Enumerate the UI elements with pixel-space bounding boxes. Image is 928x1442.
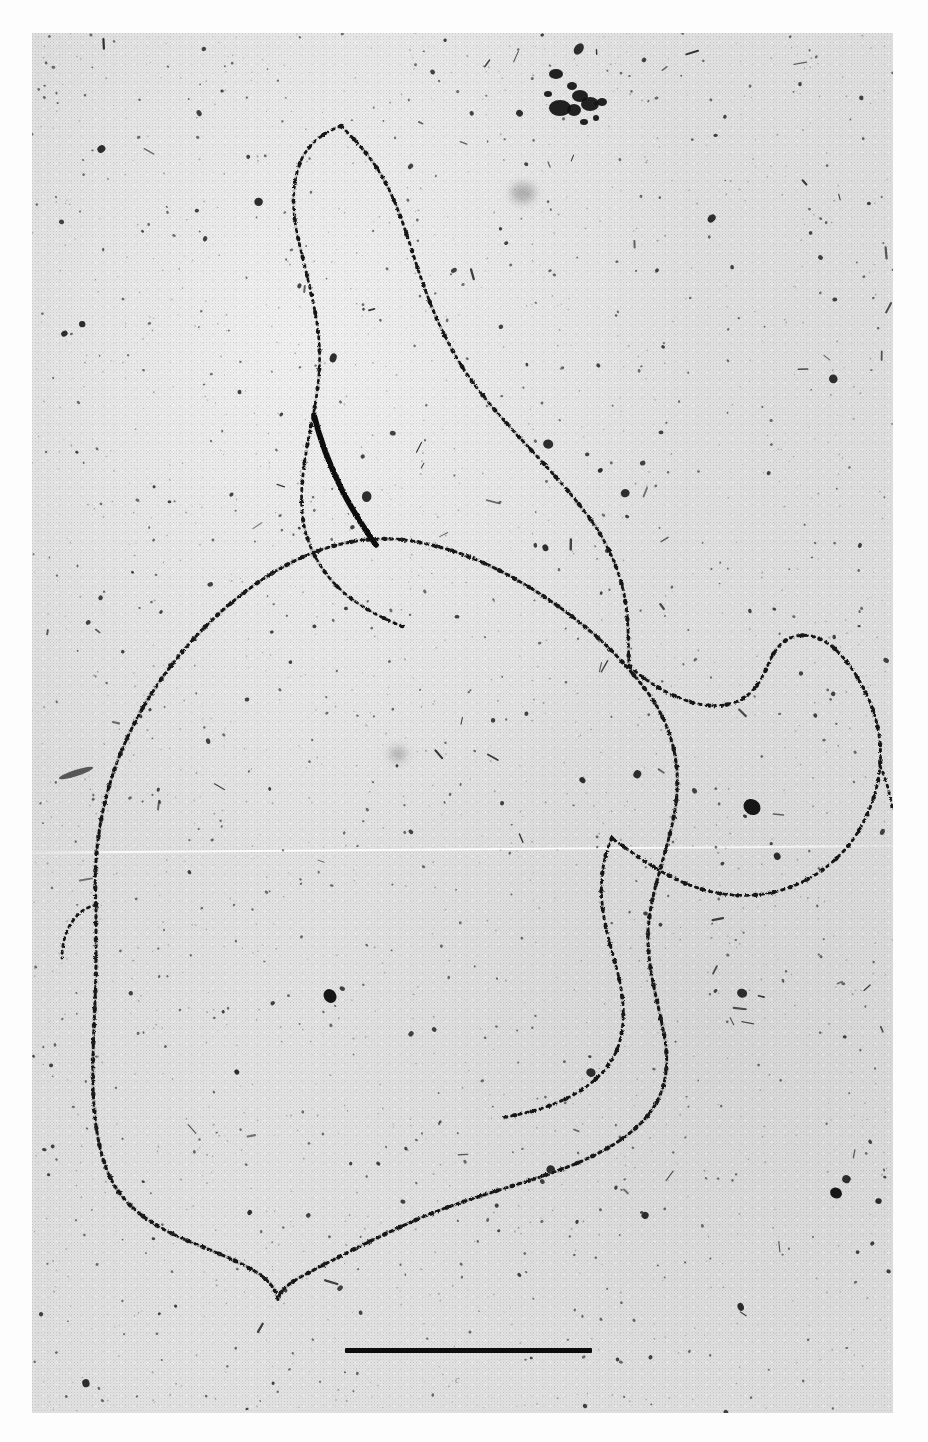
stain-speck: [753, 695, 756, 698]
stain-speck: [411, 553, 413, 555]
stain-speck: [772, 607, 777, 611]
stain-speck: [76, 1410, 78, 1412]
stain-speck: [250, 768, 252, 770]
stain-speck: [685, 1335, 686, 1336]
stain-streak: [773, 814, 783, 815]
stain-speck: [817, 867, 820, 870]
stain-speck: [460, 814, 461, 815]
stain-speck: [493, 1294, 495, 1296]
stain-speck: [262, 59, 264, 60]
stain-speck: [691, 138, 694, 141]
stain-speck: [56, 574, 59, 577]
stain-speck: [754, 714, 756, 716]
stain-speck: [431, 98, 432, 99]
stain-speck: [157, 1150, 158, 1152]
stain-speck: [845, 691, 847, 693]
stain-speck: [252, 858, 253, 859]
stain-speck: [839, 506, 841, 508]
stain-speck: [392, 1123, 394, 1125]
stain-speck: [305, 674, 307, 675]
stain-speck: [644, 767, 645, 768]
stain-speck: [162, 1073, 164, 1075]
stain-speck: [756, 655, 758, 656]
stain-speck: [685, 298, 687, 300]
stain-speck: [308, 842, 309, 844]
stain-speck: [869, 357, 871, 359]
stain-speck: [348, 1214, 350, 1217]
stain-speck: [188, 839, 190, 841]
stain-speck: [648, 471, 650, 473]
stain-speck: [801, 1379, 805, 1383]
stain-speck: [422, 50, 425, 52]
stain-speck: [828, 636, 831, 639]
stain-speck: [229, 580, 230, 581]
stain-speck: [595, 835, 598, 838]
stain-speck: [336, 954, 338, 956]
stain-speck: [268, 787, 271, 791]
stain-speck: [342, 831, 346, 835]
dna-lower-right-beads: [500, 838, 623, 1118]
stain-speck: [842, 76, 844, 78]
stain-streak: [740, 1312, 746, 1316]
stain-speck: [382, 744, 384, 746]
stain-speck: [75, 450, 79, 454]
stain-speck: [576, 637, 579, 640]
stain-speck: [568, 1235, 571, 1238]
stain-speck: [526, 305, 528, 307]
stain-speck: [744, 95, 745, 97]
stain-speck: [254, 198, 263, 207]
stain-speck: [243, 57, 244, 59]
stain-speck: [321, 763, 323, 765]
stain-speck: [633, 1105, 635, 1106]
stain-speck: [311, 1338, 314, 1342]
stain-speck: [97, 671, 99, 673]
stain-speck: [689, 297, 692, 300]
stain-speck: [873, 572, 874, 573]
stain-speck: [859, 392, 862, 395]
stain-speck: [100, 1399, 104, 1403]
stain-speck: [831, 222, 833, 224]
stain-speck: [266, 304, 267, 305]
stain-speck: [640, 365, 643, 368]
stain-speck: [155, 574, 158, 577]
stain-speck: [66, 958, 68, 960]
stain-speck: [451, 582, 453, 584]
stain-speck: [133, 754, 135, 756]
stain-speck: [40, 126, 41, 128]
stain-streak: [730, 1018, 733, 1025]
stain-speck: [755, 635, 756, 636]
stain-speck: [220, 825, 223, 828]
stain-speck: [373, 635, 376, 638]
stain-speck: [169, 748, 170, 749]
stain-speck: [138, 607, 141, 609]
stain-speck: [631, 1146, 635, 1149]
stain-speck: [103, 590, 106, 593]
stain-streak: [487, 500, 499, 503]
stain-speck: [503, 241, 508, 246]
stain-speck: [187, 869, 192, 874]
stain-speck: [349, 529, 351, 531]
stain-speck: [143, 408, 144, 409]
stain-speck: [718, 802, 721, 806]
stain-speck: [403, 804, 406, 807]
stain-speck: [801, 239, 803, 241]
stain-speck: [602, 822, 604, 824]
stain-speck: [742, 814, 747, 819]
stain-speck: [101, 609, 102, 610]
stain-speck: [226, 1140, 228, 1142]
stain-speck: [83, 93, 87, 97]
stain-speck: [112, 980, 113, 981]
stain-speck: [328, 1235, 331, 1238]
stain-speck: [726, 1020, 729, 1023]
stain-streak: [759, 996, 765, 997]
stain-speck: [313, 260, 315, 262]
stain-speck: [260, 466, 261, 467]
stain-speck: [644, 866, 647, 869]
stain-speck: [152, 665, 155, 668]
stain-speck: [132, 959, 135, 962]
stain-speck: [315, 1084, 316, 1085]
stain-speck: [437, 1092, 440, 1095]
stain-speck: [297, 482, 299, 484]
stain-speck: [419, 689, 422, 692]
stain-speck: [299, 878, 302, 881]
